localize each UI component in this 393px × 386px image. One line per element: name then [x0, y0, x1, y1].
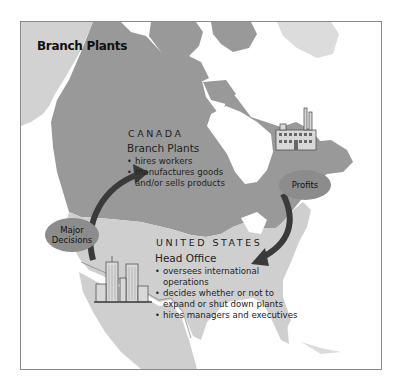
canada-bullet: hires workers	[127, 156, 247, 167]
greenland	[277, 22, 339, 58]
map-frame: Branch Plants CANADA Branch Plants hires…	[20, 21, 382, 370]
us-bullets: oversees international operations decide…	[155, 266, 305, 321]
canada-label: CANADA	[128, 128, 183, 139]
canada-heading: Branch Plants	[127, 142, 199, 154]
us-bullet: oversees international operations	[155, 266, 305, 288]
canada-bullets: hires workers manufactures goods and/or …	[127, 156, 247, 189]
diagram-title: Branch Plants	[37, 39, 127, 53]
us-bullet: hires managers and executives	[155, 310, 305, 321]
major-decisions-bubble: Major Decisions	[45, 218, 99, 252]
us-label: UNITED STATES	[156, 237, 262, 248]
canada-bullet: manufactures goods and/or sells products	[127, 167, 247, 189]
us-bullet: decides whether or not to expand or shut…	[155, 288, 305, 310]
us-heading: Head Office	[155, 252, 216, 264]
profits-bubble: Profits	[279, 170, 331, 200]
